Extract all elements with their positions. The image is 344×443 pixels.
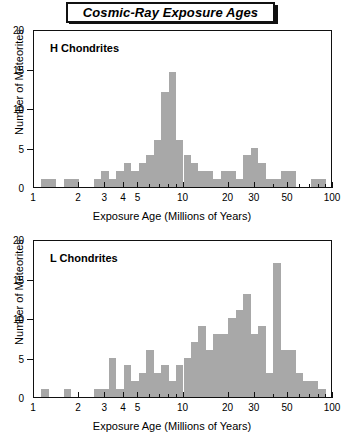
histogram-bar: [236, 179, 243, 187]
histogram-bar: [228, 171, 235, 187]
histogram-bar: [146, 350, 153, 397]
x-tick-label: 2: [75, 402, 81, 413]
x-tick-label: 5: [135, 192, 141, 203]
histogram-bar: [273, 263, 280, 397]
x-tick-minor: [168, 184, 169, 188]
histogram-bar: [146, 155, 153, 187]
histogram-bar: [221, 334, 228, 397]
y-tick: [27, 359, 33, 360]
x-tick-minor: [176, 394, 177, 398]
y-axis-title-h: Number of Meteorites: [13, 7, 25, 157]
x-tick-major: [33, 392, 34, 398]
histogram-bar: [258, 326, 265, 397]
x-tick-label: 30: [248, 192, 259, 203]
x-tick-label: 30: [248, 402, 259, 413]
panel-label-h: H Chondrites: [50, 42, 119, 54]
histogram-bar: [64, 389, 71, 397]
x-tick-major: [137, 182, 138, 188]
x-tick-major: [332, 392, 333, 398]
histogram-bar: [191, 342, 198, 397]
y-tick-label: 0: [4, 183, 24, 194]
x-tick-minor: [299, 394, 300, 398]
x-tick-label: 4: [120, 402, 126, 413]
x-tick-minor: [325, 184, 326, 188]
x-tick-minor: [309, 394, 310, 398]
y-axis-title-l: Number of Meteorites: [13, 217, 25, 367]
x-tick-minor: [318, 394, 319, 398]
histogram-bar: [109, 358, 116, 398]
y-tick: [27, 109, 33, 110]
histogram-bar: [94, 179, 101, 187]
x-tick-label: 4: [120, 192, 126, 203]
histogram-bars-h: [34, 31, 331, 187]
x-tick-major: [228, 392, 229, 398]
histogram-bars-l: [34, 241, 331, 397]
x-tick-minor: [159, 394, 160, 398]
histogram-bar: [206, 171, 213, 187]
histogram-bar: [206, 350, 213, 397]
x-tick-minor: [149, 184, 150, 188]
histogram-bar: [41, 389, 48, 397]
x-axis-title-l: Exposure Age (Millions of Years): [0, 420, 344, 432]
x-tick-major: [78, 182, 79, 188]
x-tick-major: [137, 392, 138, 398]
histogram-bar: [198, 171, 205, 187]
x-tick-minor: [273, 184, 274, 188]
y-tick: [27, 70, 33, 71]
histogram-bar: [154, 140, 161, 187]
histogram-bar: [161, 365, 168, 397]
x-tick-label: 1: [30, 192, 36, 203]
x-tick-label: 2: [75, 192, 81, 203]
y-tick: [27, 280, 33, 281]
x-tick-minor: [299, 184, 300, 188]
x-tick-major: [228, 182, 229, 188]
x-tick-minor: [273, 394, 274, 398]
x-tick-major: [78, 392, 79, 398]
x-tick-label: 5: [135, 402, 141, 413]
x-tick-label: 100: [324, 192, 341, 203]
histogram-bar: [288, 350, 295, 397]
histogram-bar: [49, 179, 56, 187]
figure-cosmic-ray-exposure-ages: Cosmic-Ray Exposure Ages H Chondrites 05…: [0, 0, 344, 443]
x-tick-minor: [149, 394, 150, 398]
x-tick-label: 100: [324, 402, 341, 413]
histogram-bar: [184, 358, 191, 398]
x-tick-minor: [325, 394, 326, 398]
histogram-bar: [213, 334, 220, 397]
x-tick-major: [183, 392, 184, 398]
x-tick-major: [104, 182, 105, 188]
x-tick-major: [287, 182, 288, 188]
y-tick: [27, 319, 33, 320]
x-tick-label: 3: [102, 192, 108, 203]
x-tick-label: 50: [281, 192, 292, 203]
x-tick-major: [123, 182, 124, 188]
x-tick-major: [33, 182, 34, 188]
x-tick-label: 20: [222, 402, 233, 413]
histogram-bar: [281, 350, 288, 397]
panel-label-l: L Chondrites: [50, 252, 118, 264]
figure-title-box: Cosmic-Ray Exposure Ages: [66, 2, 278, 24]
x-tick-major: [332, 182, 333, 188]
histogram-bar: [109, 179, 116, 187]
histogram-bar: [124, 163, 131, 187]
histogram-bar: [251, 334, 258, 397]
x-tick-major: [183, 182, 184, 188]
histogram-bar: [198, 326, 205, 397]
figure-title: Cosmic-Ray Exposure Ages: [83, 6, 258, 19]
histogram-bar: [228, 318, 235, 397]
x-tick-major: [123, 392, 124, 398]
histogram-bar: [139, 163, 146, 187]
histogram-bar: [169, 72, 176, 187]
histogram-bar: [161, 92, 168, 187]
panel-l-chondrites: L Chondrites 05101520 1234510203050100 N…: [0, 236, 344, 441]
x-tick-label: 20: [222, 192, 233, 203]
histogram-bar: [139, 373, 146, 397]
histogram-bar: [243, 155, 250, 187]
x-tick-label: 10: [177, 192, 188, 203]
x-tick-major: [287, 392, 288, 398]
x-tick-label: 3: [102, 402, 108, 413]
x-axis-title-h: Exposure Age (Millions of Years): [0, 210, 344, 222]
histogram-bar: [176, 140, 183, 187]
histogram-bar: [64, 179, 71, 187]
x-tick-major: [254, 392, 255, 398]
